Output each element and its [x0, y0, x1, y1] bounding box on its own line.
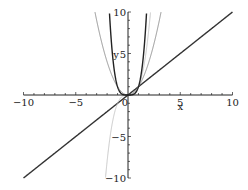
x-tick-label: 10 — [226, 97, 239, 108]
x-tick-label: −5 — [68, 97, 83, 108]
y-axis-label: y — [112, 49, 119, 60]
y-tick-label: −5 — [111, 132, 126, 143]
plot-canvas: −10−55100−10−5510xy — [0, 0, 248, 190]
x-axis-label: x — [177, 101, 183, 112]
origin-label: 0 — [122, 97, 128, 108]
x-tick-label: −10 — [13, 97, 34, 108]
y-tick-label: 5 — [120, 49, 126, 60]
y-tick-label: 10 — [113, 7, 126, 18]
y-tick-label: −10 — [105, 173, 126, 184]
